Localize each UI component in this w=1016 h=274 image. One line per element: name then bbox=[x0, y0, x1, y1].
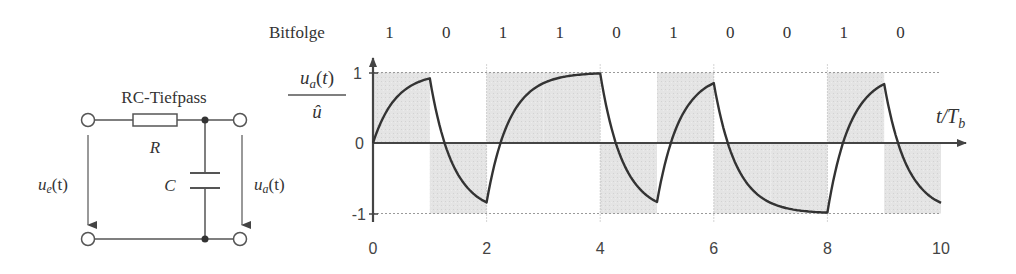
x-tick-6: 6 bbox=[709, 240, 718, 257]
input-voltage-label: ue(t) bbox=[38, 175, 68, 196]
bit-sequence-label: Bitfolge bbox=[269, 23, 325, 42]
bit-sequence-header: Bitfolge 1011010010 bbox=[269, 23, 905, 42]
input-level-shade bbox=[771, 143, 828, 214]
junction-dot-top bbox=[202, 117, 209, 124]
x-tick-labels: 0246810 bbox=[369, 240, 950, 257]
figure: RC-Tiefpass R C ue(t) ua(t) Bitfolge 101… bbox=[0, 0, 1016, 274]
bit-5: 1 bbox=[669, 23, 678, 42]
x-tick-8: 8 bbox=[823, 240, 832, 257]
bit-8: 1 bbox=[840, 23, 849, 42]
input-level-shade bbox=[827, 73, 884, 144]
bit-9: 0 bbox=[896, 23, 905, 42]
input-level-shade bbox=[430, 143, 487, 214]
y-tick-1: 1 bbox=[353, 65, 362, 82]
terminal-input-top bbox=[82, 114, 95, 127]
terminal-input-bottom bbox=[82, 233, 95, 246]
bit-3: 1 bbox=[556, 23, 565, 42]
y-axis-label-denominator: û bbox=[312, 101, 322, 122]
bit-7: 0 bbox=[783, 23, 792, 42]
x-axis-label: t/Tb bbox=[936, 105, 965, 131]
output-voltage-label: ua(t) bbox=[254, 175, 285, 196]
junction-dot-bottom bbox=[202, 236, 209, 243]
input-level-shade bbox=[543, 73, 600, 144]
bit-0: 1 bbox=[385, 23, 394, 42]
bit-6: 0 bbox=[726, 23, 735, 42]
y-tick-0: 0 bbox=[355, 135, 364, 152]
x-tick-10: 10 bbox=[932, 240, 950, 257]
input-level-shade bbox=[373, 73, 430, 144]
resistor-icon bbox=[133, 114, 177, 126]
resistor-label: R bbox=[149, 138, 161, 157]
x-tick-2: 2 bbox=[482, 240, 491, 257]
bit-1: 0 bbox=[442, 23, 451, 42]
bit-4: 0 bbox=[612, 23, 621, 42]
bit-2: 1 bbox=[499, 23, 508, 42]
capacitor-label: C bbox=[164, 176, 176, 195]
terminal-output-bottom bbox=[234, 233, 247, 246]
waveform-chart: ua(t) û 1 0 -1 0246810 t/Tb bbox=[288, 58, 966, 257]
x-tick-4: 4 bbox=[596, 240, 605, 257]
bit-list: 1011010010 bbox=[385, 23, 905, 42]
terminal-output-top bbox=[234, 114, 247, 127]
y-tick-minus-1: -1 bbox=[352, 206, 366, 223]
circuit-title: RC-Tiefpass bbox=[121, 88, 206, 107]
y-axis-label-numerator: ua(t) bbox=[300, 67, 334, 91]
input-level-shade bbox=[600, 143, 657, 214]
rc-lowpass-circuit: RC-Tiefpass R C ue(t) ua(t) bbox=[38, 88, 285, 246]
x-tick-0: 0 bbox=[369, 240, 378, 257]
